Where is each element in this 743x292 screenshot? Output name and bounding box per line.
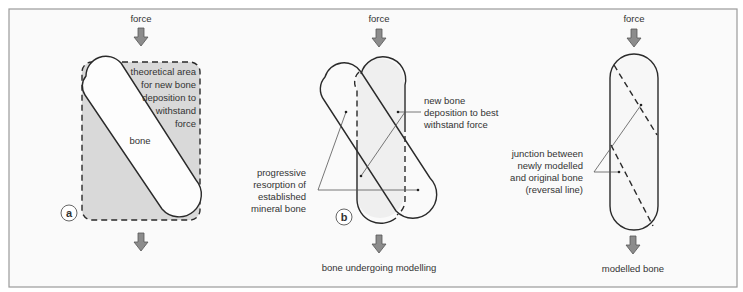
new-bone-shape	[356, 59, 404, 218]
svg-text:mineral bone: mineral bone	[251, 203, 306, 214]
svg-text:withstand: withstand	[155, 105, 196, 116]
svg-text:for new bone: for new bone	[141, 79, 196, 90]
bone-modelling-figure: force theoretical area for new bone depo…	[0, 0, 743, 292]
panel-letter: a	[66, 207, 73, 219]
svg-text:junction between: junction between	[511, 148, 583, 159]
svg-text:deposition to best: deposition to best	[424, 107, 499, 118]
modelled-bone-shape	[610, 54, 658, 230]
svg-text:theoretical area: theoretical area	[131, 66, 197, 77]
panel-caption: modelled bone	[602, 263, 664, 274]
force-label: force	[130, 13, 151, 24]
svg-text:established: established	[258, 191, 306, 202]
svg-text:withstand force: withstand force	[423, 119, 488, 130]
svg-text:new bone: new bone	[424, 95, 465, 106]
svg-text:progressive: progressive	[257, 167, 306, 178]
svg-text:deposition to: deposition to	[142, 92, 196, 103]
svg-text:(reversal line): (reversal line)	[525, 184, 583, 195]
svg-text:resorption of: resorption of	[253, 179, 306, 190]
svg-text:and original bone: and original bone	[510, 172, 583, 183]
force-label: force	[623, 13, 644, 24]
svg-text:newly modelled: newly modelled	[518, 160, 583, 171]
resorption-label: progressive resorption of established mi…	[251, 167, 306, 214]
panel-caption: bone undergoing modelling	[322, 262, 437, 273]
panel-letter: b	[341, 211, 348, 223]
force-label: force	[368, 13, 389, 24]
svg-text:force: force	[175, 118, 196, 129]
bone-label: bone	[129, 135, 150, 146]
